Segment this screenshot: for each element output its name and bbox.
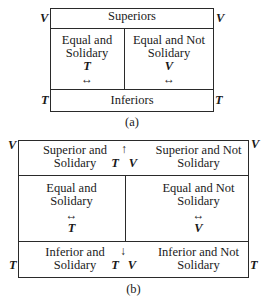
- diagram-a-top-divider: [50, 28, 214, 29]
- diagram-a-left-double-arrow-icon: ↔: [50, 73, 124, 85]
- diagram-b-corner-bottom-right: T: [250, 259, 258, 272]
- diagram-a-caption: (a): [50, 115, 214, 130]
- diagram-a-corner-top-right: V: [216, 12, 224, 25]
- diagram-a-right-double-arrow-icon: ↔: [124, 73, 214, 85]
- diagram-b-middle-right-symbol: V: [150, 222, 247, 235]
- diagram-a-corner-bottom-left: T: [41, 94, 49, 107]
- diagram-b-middle-right-double-arrow-icon: ↔: [150, 209, 247, 221]
- diagram-b-middle-left-double-arrow-icon: ↔: [18, 209, 125, 221]
- diagram-b-top-divider: [18, 175, 249, 176]
- diagram-b-up-arrow-icon: ↑: [118, 143, 130, 155]
- diagram-b-bottom-divider: [18, 241, 249, 242]
- diagram-a-corner-top-left: V: [40, 12, 48, 25]
- diagram-b-top-left-line2: Solidary: [40, 157, 110, 170]
- diagram-b-middle-left-symbol: T: [18, 222, 125, 235]
- diagram-a-superiors-label: Superiors: [50, 10, 214, 23]
- diagram-b-corner-top-left: V: [8, 139, 16, 152]
- diagram-b-bottom-symbol-t: T: [110, 259, 120, 272]
- diagram-b-corner-top-right: V: [251, 138, 259, 151]
- diagram-b-center-divider: [125, 175, 126, 241]
- diagram-b-down-arrow-icon: ↓: [117, 245, 129, 257]
- diagram-b-middle-left-line2: Solidary: [18, 195, 125, 208]
- diagram-b-bottom-symbol-v: V: [127, 259, 137, 272]
- diagram-b-corner-bottom-left: T: [9, 259, 17, 272]
- diagram-b-top-right-line2: Solidary: [150, 157, 247, 170]
- diagram-a-inferiors-label: Inferiors: [50, 94, 214, 107]
- diagram-b-bottom-right-line2: Solidary: [150, 259, 247, 272]
- diagram-b-top-symbol-v: V: [128, 157, 138, 170]
- diagram-b-caption: (b): [18, 282, 249, 297]
- diagram-a-corner-bottom-right: T: [215, 94, 223, 107]
- diagram-b-middle-right-line2: Solidary: [150, 195, 247, 208]
- diagram-b-bottom-left-line2: Solidary: [38, 259, 112, 272]
- diagram-b-top-symbol-t: T: [110, 157, 120, 170]
- diagram-a-bottom-divider: [50, 89, 214, 90]
